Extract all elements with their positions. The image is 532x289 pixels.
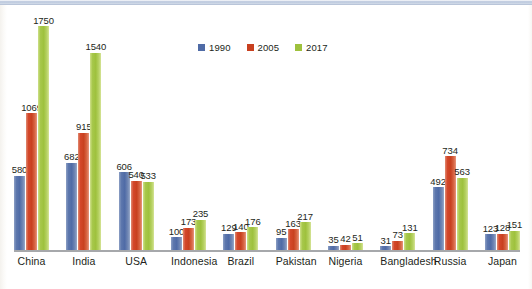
legend-item-1990: 1990: [198, 43, 231, 53]
bar-value-label: 682: [64, 152, 80, 162]
bar-group-nigeria: 354251: [328, 14, 363, 250]
bar-slot: 131: [404, 14, 415, 250]
x-axis-label-russia: Russia: [433, 256, 468, 268]
bar-brazil-2017: 176: [247, 227, 258, 250]
bar-value-label: 51: [352, 233, 362, 243]
bar-usa-2017: 533: [143, 182, 154, 250]
bar-japan-2017: 151: [509, 231, 520, 250]
legend-label: 2005: [258, 43, 280, 53]
x-axis-label-japan: Japan: [485, 256, 520, 268]
bar-india-2017: 1540: [90, 53, 101, 250]
legend-swatch-icon: [295, 44, 302, 51]
x-axis-line: [14, 250, 520, 252]
bar-slot: 563: [457, 14, 468, 250]
bar-group-india: 6829151540: [66, 14, 101, 250]
legend-swatch-icon: [198, 44, 205, 51]
bar-value-label: 151: [507, 220, 523, 230]
bar-slot: 100: [171, 14, 182, 250]
bar-slot: 1540: [90, 14, 101, 250]
x-axis-label-bangladesh: Bangladesh: [380, 256, 415, 268]
x-axis-label-nigeria: Nigeria: [328, 256, 363, 268]
page-top-edge-line: [0, 4, 532, 5]
bar-group-bangladesh: 3173131: [380, 14, 415, 250]
chart-legend: 199020052017: [198, 43, 328, 53]
bar-slot: 580: [14, 14, 25, 250]
page-right-edge: [528, 5, 532, 289]
bar-value-label: 35: [328, 235, 338, 245]
legend-label: 2017: [306, 43, 328, 53]
bar-value-label: 492: [430, 177, 446, 187]
bar-value-label: 31: [381, 236, 391, 246]
legend-item-2005: 2005: [247, 43, 280, 53]
bar-group-china: 58010691750: [14, 14, 49, 250]
bar-value-label: 533: [140, 171, 156, 181]
bar-value-label: 217: [297, 212, 313, 222]
bar-slot: 128: [497, 14, 508, 250]
bar-brazil-1990: 129: [223, 234, 234, 251]
bar-indonesia-1990: 100: [171, 237, 182, 250]
bar-value-label: 235: [193, 209, 209, 219]
bar-china-2017: 1750: [38, 26, 49, 250]
bar-group-russia: 492734563: [433, 14, 468, 250]
bar-slot: 35: [328, 14, 339, 250]
bar-slot: 540: [131, 14, 142, 250]
bar-usa-1990: 606: [119, 172, 130, 250]
bar-slot: 734: [445, 14, 456, 250]
bar-india-1990: 682: [66, 163, 77, 250]
bar-slot: 123: [485, 14, 496, 250]
legend-swatch-icon: [247, 44, 254, 51]
bar-value-label: 563: [454, 167, 470, 177]
bar-slot: 533: [143, 14, 154, 250]
bar-slot: 1069: [26, 14, 37, 250]
bar-slot: 73: [392, 14, 403, 250]
bar-slot: 151: [509, 14, 520, 250]
x-axis-label-india: India: [66, 256, 101, 268]
x-axis-label-pakistan: Pakistan: [276, 256, 311, 268]
bar-japan-1990: 123: [485, 234, 496, 250]
bar-usa-2005: 540: [131, 181, 142, 250]
bar-china-2005: 1069: [26, 113, 37, 250]
bar-value-label: 95: [276, 227, 286, 237]
bar-slot: 42: [340, 14, 351, 250]
legend-item-2017: 2017: [295, 43, 328, 53]
bar-value-label: 1540: [85, 42, 106, 52]
bar-pakistan-1990: 95: [276, 238, 287, 250]
bar-value-label: 1750: [33, 16, 54, 26]
page-left-edge: [0, 5, 7, 289]
x-axis-label-brazil: Brazil: [223, 256, 258, 268]
bar-bangladesh-2017: 131: [404, 233, 415, 250]
x-axis-label-indonesia: Indonesia: [171, 256, 206, 268]
bar-slot: 31: [380, 14, 391, 250]
bar-indonesia-2005: 173: [183, 228, 194, 250]
bar-japan-2005: 128: [497, 234, 508, 250]
bar-slot: 51: [352, 14, 363, 250]
x-axis-label-china: China: [14, 256, 49, 268]
legend-label: 1990: [209, 43, 231, 53]
bar-value-label: 42: [340, 234, 350, 244]
bar-brazil-2005: 140: [235, 232, 246, 250]
bar-pakistan-2017: 217: [300, 222, 311, 250]
bar-group-japan: 123128151: [485, 14, 520, 250]
bar-russia-1990: 492: [433, 187, 444, 250]
bar-china-1990: 580: [14, 176, 25, 250]
bar-slot: 1750: [38, 14, 49, 250]
chart-page: 199020052017 580106917506829151540606540…: [0, 0, 532, 289]
bar-pakistan-2005: 163: [288, 229, 299, 250]
bar-slot: 606: [119, 14, 130, 250]
bar-slot: 492: [433, 14, 444, 250]
bar-value-label: 100: [169, 227, 185, 237]
bar-indonesia-2017: 235: [195, 220, 206, 250]
bar-group-usa: 606540533: [119, 14, 154, 250]
bar-india-2005: 915: [78, 133, 89, 250]
x-axis-label-usa: USA: [119, 256, 154, 268]
bar-value-label: 131: [402, 223, 418, 233]
bar-russia-2017: 563: [457, 178, 468, 250]
bar-bangladesh-2005: 73: [392, 241, 403, 250]
bar-value-label: 915: [76, 122, 92, 132]
bar-value-label: 580: [12, 165, 28, 175]
x-axis-tick-labels: ChinaIndiaUSAIndonesiaBrazilPakistanNige…: [14, 256, 520, 268]
bar-value-label: 734: [442, 146, 458, 156]
bar-value-label: 176: [245, 217, 261, 227]
